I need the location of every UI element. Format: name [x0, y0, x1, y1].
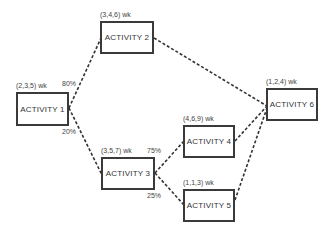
probability-label: 80% [62, 80, 76, 87]
probability-label: 25% [147, 192, 161, 199]
edge-a2-a6 [154, 38, 267, 106]
activity-node-a6: ACTIVITY 6 [266, 88, 318, 121]
activity-node-a5: ACTIVITY 5 [183, 189, 235, 222]
duration-label-a5: (1,1,3) wk [183, 179, 214, 186]
edge-a1-a2 [69, 38, 101, 108]
probability-label: 20% [62, 128, 76, 135]
duration-label-a3: (3,5,7) wk [101, 147, 132, 154]
duration-label-a6: (1,2,4) wk [266, 78, 297, 85]
edge-a1-a3 [69, 108, 102, 175]
activity-node-a4: ACTIVITY 4 [183, 125, 235, 158]
edge-a5-a6 [235, 108, 267, 200]
activity-label: ACTIVITY 3 [106, 169, 151, 178]
edge-a3-a4 [155, 141, 184, 173]
duration-label-a1: (2,3,5) wk [16, 82, 47, 89]
activity-label: ACTIVITY 6 [270, 100, 315, 109]
edge-a3-a5 [155, 173, 184, 205]
activity-label: ACTIVITY 1 [20, 105, 65, 114]
activity-label: ACTIVITY 2 [105, 33, 150, 42]
activity-label: ACTIVITY 4 [187, 137, 232, 146]
duration-label-a4: (4,6,9) wk [183, 115, 214, 122]
activity-node-a2: ACTIVITY 2 [100, 21, 154, 54]
activity-node-a3: ACTIVITY 3 [101, 157, 155, 190]
activity-node-a1: ACTIVITY 1 [16, 92, 69, 126]
duration-label-a2: (3,4,6) wk [100, 11, 131, 18]
probability-label: 75% [147, 147, 161, 154]
activity-label: ACTIVITY 5 [187, 201, 232, 210]
